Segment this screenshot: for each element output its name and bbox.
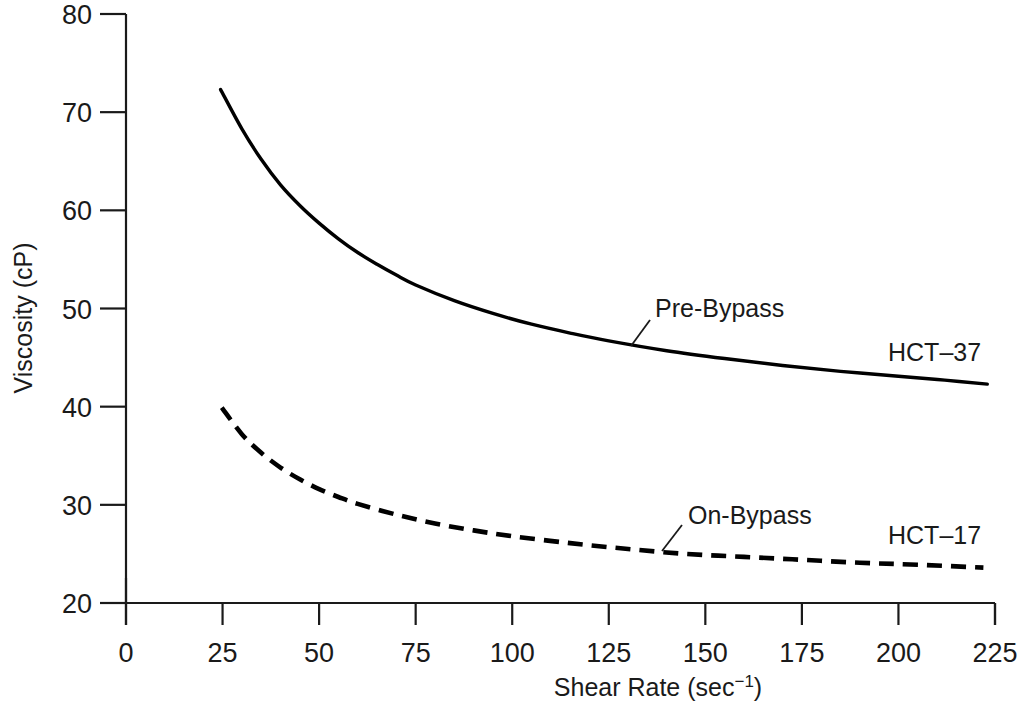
annotation-hct-17: HCT–17 xyxy=(888,521,981,549)
x-tick-label: 50 xyxy=(304,638,334,668)
y-tick-label: 20 xyxy=(62,589,92,619)
annotation-pre-bypass: Pre-Bypass xyxy=(655,294,784,322)
y-tick-label: 70 xyxy=(62,98,92,128)
x-tick-label: 225 xyxy=(972,638,1017,668)
x-tick-label: 125 xyxy=(586,638,631,668)
x-tick-label: 175 xyxy=(779,638,824,668)
x-tick-label: 100 xyxy=(490,638,535,668)
viscosity-shear-rate-chart: 20304050607080 0255075100125150175200225… xyxy=(0,0,1027,712)
x-tick-label: 0 xyxy=(118,638,133,668)
y-axis-ticks xyxy=(100,14,126,603)
x-tick-label: 75 xyxy=(401,638,431,668)
x-tick-label: 25 xyxy=(208,638,238,668)
y-tick-label: 50 xyxy=(62,295,92,325)
y-tick-label: 60 xyxy=(62,196,92,226)
y-tick-label: 80 xyxy=(62,0,92,30)
y-tick-label: 40 xyxy=(62,393,92,423)
y-tick-label: 30 xyxy=(62,491,92,521)
annotation-on-bypass: On-Bypass xyxy=(688,501,812,529)
y-axis-tick-labels: 20304050607080 xyxy=(62,0,92,619)
axes-group xyxy=(100,14,995,625)
chart-canvas: 20304050607080 0255075100125150175200225… xyxy=(0,0,1027,712)
y-axis-title: Viscosity (cP) xyxy=(9,243,37,394)
x-axis-ticks xyxy=(126,578,995,625)
leader-line-on-bypass xyxy=(662,525,682,551)
series-line-pre-bypass xyxy=(221,90,988,385)
annotation-hct-37: HCT–37 xyxy=(888,338,981,366)
series-line-on-bypass xyxy=(222,408,984,568)
x-tick-label: 200 xyxy=(876,638,921,668)
leader-line-pre-bypass xyxy=(631,320,650,346)
x-axis-tick-labels: 0255075100125150175200225 xyxy=(118,638,1017,668)
x-tick-label: 150 xyxy=(683,638,728,668)
x-axis-title: Shear Rate (sec−1) xyxy=(554,672,762,701)
